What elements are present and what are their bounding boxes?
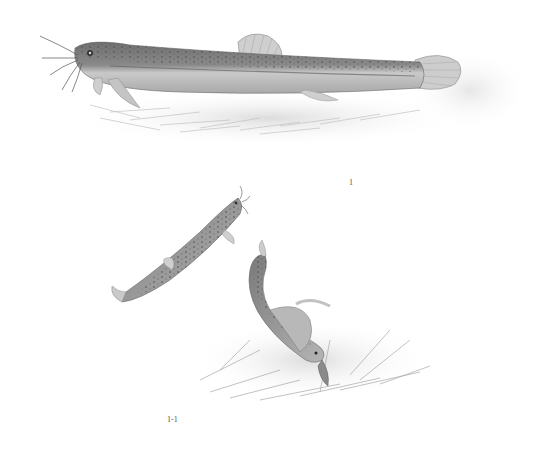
fish-illustration [0,0,553,455]
figure-label-1: 1 [349,178,353,187]
figure-1-1-swimming-loach [112,186,250,302]
barbels [40,36,82,92]
illustration-plate: 1 1-1 [0,0,553,455]
figure-1-1-burrowing-loach [190,240,430,400]
figure-label-1-1: 1-1 [167,415,178,424]
figure-1-loach [40,34,530,146]
